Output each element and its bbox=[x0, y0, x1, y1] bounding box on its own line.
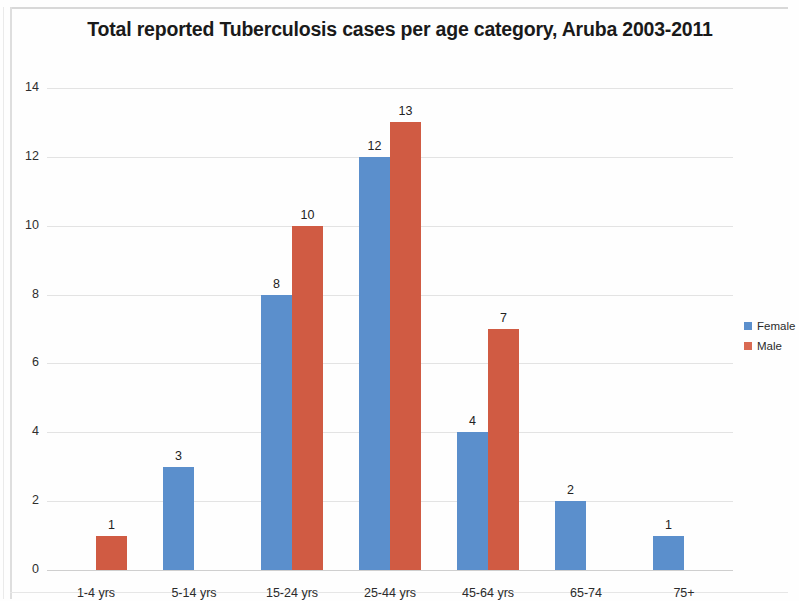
y-axis-tick-label: 14 bbox=[9, 80, 39, 94]
bar-value-label: 2 bbox=[551, 483, 591, 497]
legend-label: Male bbox=[757, 340, 782, 352]
bar-female-45-64-yrs bbox=[457, 432, 488, 570]
chart-legend: FemaleMale bbox=[744, 316, 799, 356]
page-border-left-outer bbox=[3, 7, 4, 599]
bar-value-label: 7 bbox=[484, 311, 524, 325]
bar-female-15-24-yrs bbox=[261, 295, 292, 570]
bar-value-label: 10 bbox=[288, 208, 328, 222]
bar-value-label: 3 bbox=[159, 449, 199, 463]
bar-value-label: 12 bbox=[355, 139, 395, 153]
bar-value-label: 1 bbox=[649, 518, 689, 532]
legend-item-male[interactable]: Male bbox=[744, 336, 799, 356]
legend-item-female[interactable]: Female bbox=[744, 316, 799, 336]
bar-value-label: 4 bbox=[453, 414, 493, 428]
y-axis-tick-label: 8 bbox=[9, 287, 39, 301]
bar-value-label: 13 bbox=[386, 104, 426, 118]
page-border-left bbox=[10, 7, 12, 599]
bar-female-5-14-yrs bbox=[163, 467, 194, 570]
x-axis-category-label: 75+ bbox=[619, 586, 749, 600]
bar-female-25-44-yrs bbox=[359, 157, 390, 570]
y-axis-tick-label: 4 bbox=[9, 424, 39, 438]
plot-area: 11-4 yrs35-14 yrs81015-24 yrs121325-44 y… bbox=[47, 88, 733, 570]
bar-male-25-44-yrs bbox=[390, 122, 421, 570]
legend-label: Female bbox=[757, 320, 795, 332]
y-axis-tick-label: 0 bbox=[9, 562, 39, 576]
y-axis-tick-label: 12 bbox=[9, 149, 39, 163]
y-axis-tick-label: 6 bbox=[9, 355, 39, 369]
bar-value-label: 1 bbox=[92, 518, 132, 532]
bar-female-65-74 bbox=[555, 501, 586, 570]
y-axis-tick-label: 10 bbox=[9, 218, 39, 232]
gridline-0 bbox=[47, 570, 733, 571]
legend-swatch-icon bbox=[744, 342, 752, 350]
bar-value-label: 8 bbox=[257, 277, 297, 291]
bar-male-15-24-yrs bbox=[292, 226, 323, 570]
chart-title: Total reported Tuberculosis cases per ag… bbox=[70, 14, 730, 44]
y-axis-tick-label: 2 bbox=[9, 493, 39, 507]
bar-male-1-4-yrs bbox=[96, 536, 127, 570]
bar-female-75+ bbox=[653, 536, 684, 570]
legend-swatch-icon bbox=[744, 322, 752, 330]
page-border-top bbox=[10, 7, 788, 9]
bar-male-45-64-yrs bbox=[488, 329, 519, 570]
gridline-14 bbox=[47, 88, 733, 89]
chart-image: Total reported Tuberculosis cases per ag… bbox=[0, 0, 799, 601]
